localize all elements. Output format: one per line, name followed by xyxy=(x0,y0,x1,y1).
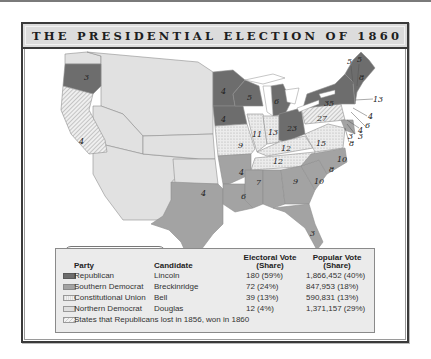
svg-text:4: 4 xyxy=(220,115,226,124)
svg-text:5: 5 xyxy=(247,93,252,102)
electoral-vote: 180 (59%) xyxy=(246,271,283,281)
popular-vote: 1,371,157 (29%) xyxy=(306,304,365,314)
svg-text:9: 9 xyxy=(238,141,243,150)
svg-text:3: 3 xyxy=(358,132,363,141)
electoral-vote: 72 (24%) xyxy=(246,282,278,292)
legend-row-flipped-states: States that Republicans lost in 1856, wo… xyxy=(56,315,374,325)
legend-row-southern-democrat: Southern Democrat Breckinridge 72 (24%) … xyxy=(56,282,374,292)
territory-indian xyxy=(173,159,218,184)
party: Northern Democrat xyxy=(74,304,142,314)
svg-text:5: 5 xyxy=(357,55,362,64)
state-iowa xyxy=(213,106,247,126)
svg-text:3: 3 xyxy=(310,229,315,238)
top-rule xyxy=(0,0,431,2)
popular-vote: 1,866,452 (40%) xyxy=(306,271,365,281)
svg-text:23: 23 xyxy=(286,124,297,133)
svg-text:6: 6 xyxy=(274,97,279,106)
party: Constitutional Union xyxy=(74,293,146,303)
legend-table: Party Candidate Electoral Vote (Share) P… xyxy=(55,248,375,333)
svg-text:13: 13 xyxy=(373,95,383,104)
svg-text:4: 4 xyxy=(78,137,84,146)
party: Southern Democrat xyxy=(74,282,143,292)
svg-text:3: 3 xyxy=(84,73,89,82)
svg-text:12: 12 xyxy=(281,144,291,153)
svg-text:11: 11 xyxy=(252,130,262,139)
popular-vote: 847,953 (18%) xyxy=(306,282,358,292)
legend-row-northern-democrat: Northern Democrat Douglas 12 (4%) 1,371,… xyxy=(56,304,374,314)
electoral-vote: 12 (4%) xyxy=(246,304,274,314)
svg-text:8: 8 xyxy=(359,73,364,82)
legend-row-republican: Republican Lincoln 180 (59%) 1,866,452 (… xyxy=(56,271,374,281)
party: Republican xyxy=(74,271,114,281)
legend-header-popular-line2: (Share) xyxy=(304,262,370,270)
legend-header-electoral: Electoral Vote (Share) xyxy=(234,254,306,270)
svg-text:5: 5 xyxy=(347,57,352,66)
svg-text:10: 10 xyxy=(337,155,347,164)
svg-text:8: 8 xyxy=(349,139,354,148)
state-missouri xyxy=(215,124,255,156)
popular-vote: 590,831 (13%) xyxy=(306,293,358,303)
candidate: Bell xyxy=(154,293,167,303)
svg-text:8: 8 xyxy=(329,165,334,174)
legend-header-electoral-line2: (Share) xyxy=(234,262,306,270)
electoral-vote: 39 (13%) xyxy=(246,293,278,303)
svg-text:6: 6 xyxy=(365,121,370,130)
legend-row-constitutional-union: Constitutional Union Bell 39 (13%) 590,8… xyxy=(56,293,374,303)
svg-text:4: 4 xyxy=(200,189,206,198)
svg-text:4: 4 xyxy=(238,168,244,177)
svg-text:15: 15 xyxy=(316,139,326,148)
legend-header-popular: Popular Vote (Share) xyxy=(304,254,370,270)
state-mississippi xyxy=(245,170,263,208)
legend-header-party: Party xyxy=(74,262,94,270)
svg-text:10: 10 xyxy=(314,177,324,186)
svg-text:12: 12 xyxy=(273,157,283,166)
candidate: Breckinridge xyxy=(154,282,198,292)
svg-text:9: 9 xyxy=(293,177,298,186)
svg-text:35: 35 xyxy=(324,99,334,108)
state-florida xyxy=(273,204,323,250)
svg-text:4: 4 xyxy=(367,112,373,121)
svg-text:4: 4 xyxy=(220,87,226,96)
legend-header-candidate: Candidate xyxy=(154,262,193,270)
candidate: Douglas xyxy=(154,304,183,314)
flipped-states-note: States that Republicans lost in 1856, wo… xyxy=(74,315,249,325)
candidate: Lincoln xyxy=(154,271,179,281)
svg-text:27: 27 xyxy=(316,114,328,123)
svg-text:13: 13 xyxy=(268,128,278,137)
svg-text:6: 6 xyxy=(241,192,246,201)
